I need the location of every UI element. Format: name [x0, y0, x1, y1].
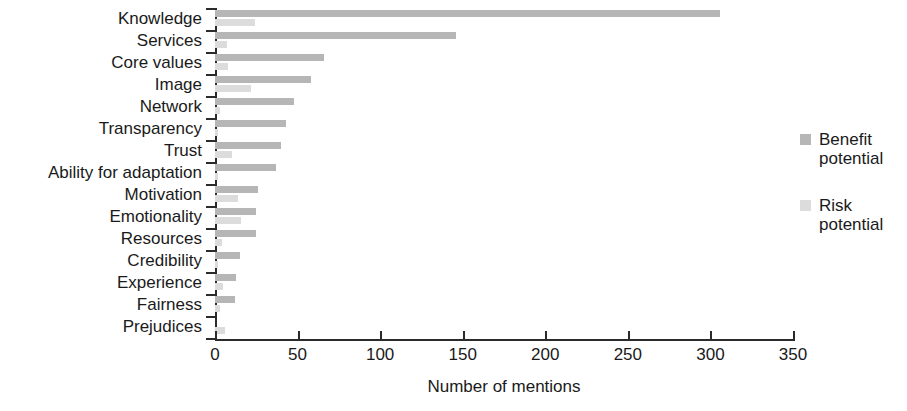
bar-benefit: [215, 208, 256, 215]
y-axis-label: Fairness: [2, 296, 202, 313]
x-axis-title: Number of mentions: [215, 377, 793, 397]
legend-label-risk: Risk potential: [819, 196, 907, 234]
bar-risk: [215, 283, 223, 290]
x-axis-tick: [215, 331, 217, 341]
bar-benefit: [215, 296, 235, 303]
y-axis-label: Emotionality: [2, 208, 202, 225]
bar-group: [215, 206, 810, 228]
bar-group: [215, 250, 810, 272]
bar-benefit: [215, 120, 286, 127]
bar-benefit: [215, 10, 720, 17]
bar-group: [215, 272, 810, 294]
x-axis-tick-label: 0: [210, 345, 219, 364]
bar-benefit: [215, 98, 294, 105]
bar-risk: [215, 63, 228, 70]
bar-benefit: [215, 142, 281, 149]
bar-risk: [215, 41, 227, 48]
bar-benefit: [215, 76, 311, 83]
legend-label-benefit-line1: Benefit: [819, 130, 907, 149]
y-axis-label: Credibility: [2, 252, 202, 269]
x-axis-tick: [628, 331, 630, 341]
y-axis-label: Services: [2, 32, 202, 49]
bar-benefit: [215, 32, 456, 39]
bar-benefit: [215, 252, 240, 259]
bar-group: [215, 228, 810, 250]
bar-group: [215, 118, 810, 140]
x-axis-tick: [545, 331, 547, 341]
bar-risk: [215, 19, 255, 26]
bar-group: [215, 316, 810, 338]
bar-group: [215, 162, 810, 184]
bar-group: [215, 74, 810, 96]
bar-benefit: [215, 230, 256, 237]
y-axis-label: Resources: [2, 230, 202, 247]
bar-chart: KnowledgeServicesCore valuesImageNetwork…: [0, 0, 907, 411]
legend-label-benefit: Benefit potential: [819, 130, 907, 168]
bar-benefit: [215, 54, 324, 61]
legend-swatch-risk-icon: [800, 200, 811, 211]
legend-swatch-benefit-icon: [800, 134, 811, 145]
bar-risk: [215, 173, 218, 180]
legend-item-risk: Risk potential: [800, 196, 907, 234]
y-axis-label: Transparency: [2, 120, 202, 137]
bar-group: [215, 8, 810, 30]
y-axis-label: Core values: [2, 54, 202, 71]
y-axis-label: Motivation: [2, 186, 202, 203]
x-axis-tick-label: 300: [696, 345, 724, 364]
bar-benefit: [215, 164, 276, 171]
bar-group: [215, 30, 810, 52]
y-axis-label: Prejudices: [2, 318, 202, 335]
x-axis-tick: [298, 331, 300, 341]
bar-group: [215, 140, 810, 162]
x-axis-tick: [710, 331, 712, 341]
x-axis-tick: [463, 331, 465, 341]
legend-label-risk-line2: potential: [819, 215, 907, 234]
bar-group: [215, 52, 810, 74]
legend-item-benefit: Benefit potential: [800, 130, 907, 168]
bar-group: [215, 294, 810, 316]
bar-risk: [215, 85, 251, 92]
y-axis-label: Knowledge: [2, 10, 202, 27]
legend-label-risk-line1: Risk: [819, 196, 907, 215]
x-axis-line: [215, 339, 793, 341]
bar-risk: [215, 239, 222, 246]
bar-risk: [215, 129, 218, 136]
bar-risk: [215, 107, 220, 114]
bar-group: [215, 96, 810, 118]
bar-risk: [215, 305, 220, 312]
y-axis-label: Trust: [2, 142, 202, 159]
bar-risk: [215, 151, 232, 158]
bar-benefit: [215, 186, 258, 193]
x-axis-tick-label: 200: [531, 345, 559, 364]
plot-area: [215, 8, 810, 338]
y-axis-labels: KnowledgeServicesCore valuesImageNetwork…: [0, 0, 202, 411]
x-axis-tick-label: 150: [449, 345, 477, 364]
y-axis-label: Ability for adaptation: [2, 164, 202, 181]
bar-group: [215, 184, 810, 206]
x-axis-tick-label: 250: [614, 345, 642, 364]
x-axis-tick: [380, 331, 382, 341]
legend-label-benefit-line2: potential: [819, 149, 907, 168]
y-axis-label: Network: [2, 98, 202, 115]
x-axis-tick-label: 50: [288, 345, 307, 364]
x-axis-tick-label: 350: [779, 345, 807, 364]
y-axis-label: Image: [2, 76, 202, 93]
x-axis-tick-label: 100: [366, 345, 394, 364]
chart-legend: Benefit potential Risk potential: [800, 130, 907, 262]
bar-risk: [215, 195, 238, 202]
bar-risk: [215, 261, 218, 268]
y-axis-label: Experience: [2, 274, 202, 291]
x-axis-tick: [793, 331, 795, 341]
bar-risk: [215, 217, 241, 224]
bar-benefit: [215, 274, 236, 281]
